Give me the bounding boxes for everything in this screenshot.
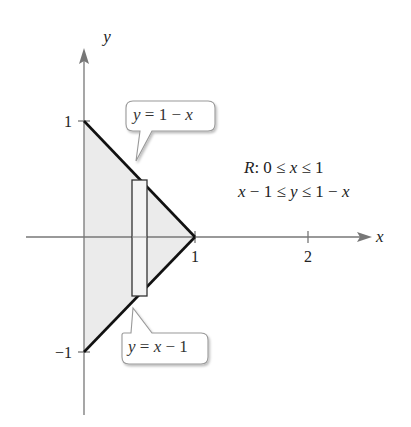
- region-diagram: y x 1 2 1 −1: [0, 0, 411, 427]
- y-tick-label-neg1: −1: [55, 344, 72, 361]
- y-axis-label: y: [101, 27, 111, 46]
- upper-callout-label: y = 1 − x: [133, 105, 193, 125]
- region-definition-line-1: R: 0 ≤ x ≤ 1: [244, 158, 324, 178]
- representative-rectangle: [132, 180, 147, 296]
- lower-callout-label: y = x − 1: [128, 337, 188, 357]
- region-definition-line-2: x − 1 ≤ y ≤ 1 − x: [238, 182, 349, 202]
- x-axis-label: x: [375, 227, 384, 246]
- x-tick-label-2: 2: [304, 248, 312, 265]
- y-tick-label-1: 1: [64, 113, 72, 130]
- x-tick-label-1: 1: [191, 248, 199, 265]
